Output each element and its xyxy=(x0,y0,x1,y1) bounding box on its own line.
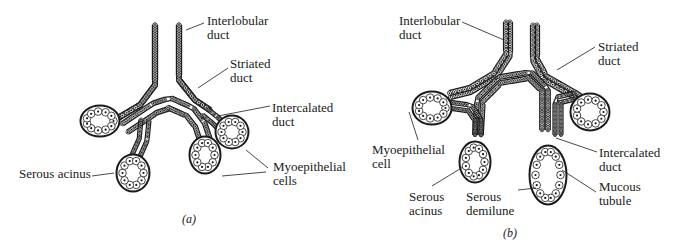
cell-nucleus xyxy=(480,94,482,96)
cell-nucleus xyxy=(148,119,150,121)
cell-nucleus xyxy=(127,131,129,133)
cell-nucleus xyxy=(190,121,192,123)
cell-nucleus xyxy=(459,90,461,92)
duct-lumen-wall xyxy=(117,25,153,116)
cell-nucleus xyxy=(442,113,444,115)
cell-nucleus xyxy=(480,127,482,129)
cell-nucleus xyxy=(437,97,439,99)
label-line: cells xyxy=(273,174,346,188)
cell-nucleus xyxy=(222,125,224,127)
cell-nucleus xyxy=(490,84,492,86)
cell-nucleus xyxy=(234,121,236,123)
cell-nucleus xyxy=(183,103,185,105)
cell-nucleus xyxy=(554,122,556,124)
cell-nucleus xyxy=(480,130,482,132)
cell-nucleus xyxy=(207,142,209,144)
cell-nucleus xyxy=(206,130,208,132)
cell-nucleus xyxy=(534,75,536,77)
cell-nucleus xyxy=(505,45,507,47)
cell-nucleus xyxy=(474,123,476,125)
cell-nucleus xyxy=(478,86,480,88)
cell-nucleus xyxy=(137,141,139,143)
cell-nucleus xyxy=(121,123,123,125)
cell-nucleus xyxy=(547,129,549,131)
cell-nucleus xyxy=(554,107,556,109)
cell-nucleus xyxy=(154,74,156,76)
cell-nucleus xyxy=(562,85,564,87)
cell-nucleus xyxy=(154,54,156,56)
cell-nucleus xyxy=(144,108,146,110)
serous-acinus-upper-left xyxy=(413,92,452,125)
cell-nucleus xyxy=(532,44,534,46)
cell-nucleus xyxy=(536,34,538,36)
cell-nucleus xyxy=(534,174,536,176)
cell-nucleus xyxy=(550,197,552,199)
cell-nucleus xyxy=(187,105,189,107)
cell-nucleus xyxy=(159,111,161,113)
cell-nucleus xyxy=(211,122,213,124)
cell-nucleus xyxy=(547,125,549,127)
cell-nucleus xyxy=(178,44,180,46)
cell-nucleus xyxy=(503,57,505,59)
cell-nucleus xyxy=(541,98,543,100)
cell-nucleus xyxy=(552,84,554,86)
cell-nucleus xyxy=(500,61,502,63)
cell-nucleus xyxy=(465,157,467,159)
cell-nucleus xyxy=(547,116,549,118)
cell-nucleus xyxy=(560,130,562,132)
cell-nucleus xyxy=(207,166,209,168)
cell-nucleus xyxy=(483,161,485,163)
cell-nucleus xyxy=(154,44,156,46)
cell-nucleus xyxy=(535,65,537,67)
cell-nucleus xyxy=(86,123,88,125)
acinus-lumen xyxy=(200,147,210,163)
cell-nucleus xyxy=(547,98,549,100)
cell-nucleus xyxy=(429,117,431,119)
cell-nucleus xyxy=(210,111,212,113)
cell-nucleus xyxy=(154,24,156,26)
label-b-interlobular-duct: Interlobular duct xyxy=(399,14,460,42)
cell-nucleus xyxy=(196,111,198,113)
interlobular-duct-right xyxy=(531,23,586,104)
cell-nucleus xyxy=(179,101,181,103)
cell-nucleus xyxy=(506,59,508,61)
label-a-serous-acinus: Serous acinus xyxy=(19,167,91,181)
cell-nucleus xyxy=(134,148,136,150)
cell-nucleus xyxy=(554,134,556,136)
cell-nucleus xyxy=(498,71,500,73)
cell-nucleus xyxy=(587,99,589,101)
cell-nucleus xyxy=(541,120,543,122)
cell-nucleus xyxy=(429,97,431,99)
cell-nucleus xyxy=(139,131,141,133)
cell-nucleus xyxy=(460,94,462,96)
label-line: Myoepithelial xyxy=(372,143,445,157)
cell-nucleus xyxy=(197,133,199,135)
label-line: Serous xyxy=(466,190,514,204)
cell-nucleus xyxy=(422,115,424,117)
cell-nucleus xyxy=(485,98,487,100)
cell-nucleus xyxy=(495,69,497,71)
cell-nucleus xyxy=(482,108,484,110)
cell-nucleus xyxy=(191,95,193,97)
cell-nucleus xyxy=(154,69,156,71)
cell-nucleus xyxy=(178,64,180,66)
cell-nucleus xyxy=(135,107,137,109)
caption-a: (a) xyxy=(182,212,196,227)
label-line: acinus xyxy=(409,204,444,218)
cell-nucleus xyxy=(141,152,143,154)
cell-nucleus xyxy=(505,26,507,28)
cell-nucleus xyxy=(454,91,456,93)
cell-nucleus xyxy=(471,115,473,117)
cell-nucleus xyxy=(472,105,474,107)
label-line: duct xyxy=(399,28,460,42)
cell-nucleus xyxy=(139,135,141,137)
cell-nucleus xyxy=(476,103,478,105)
cell-nucleus xyxy=(527,76,529,78)
cell-nucleus xyxy=(541,129,543,131)
cell-nucleus xyxy=(126,112,128,114)
cell-nucleus xyxy=(213,154,215,156)
cell-nucleus xyxy=(493,72,495,74)
label-line: duct xyxy=(272,115,333,129)
cell-nucleus xyxy=(531,72,533,74)
cell-nucleus xyxy=(483,83,485,85)
